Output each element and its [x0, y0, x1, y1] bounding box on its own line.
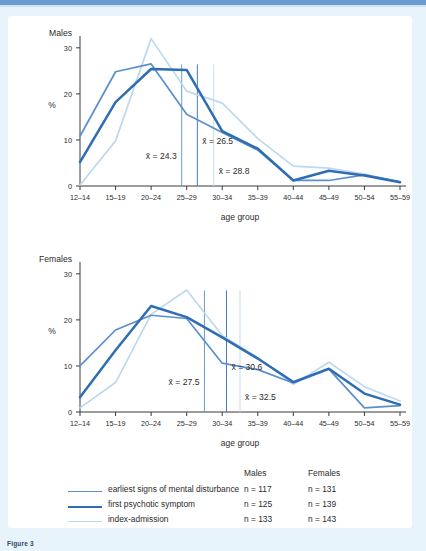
chart-panel-males: Males0102030%12–1415–1920–2425–2930–3435…	[8, 16, 412, 231]
series-line-3	[80, 39, 400, 185]
legend-label: index-admission	[108, 514, 169, 524]
x-tick-label: 20–24	[141, 193, 161, 202]
x-tick-label: 30–34	[212, 193, 232, 202]
legend-line-swatch	[68, 521, 102, 522]
legend-column-header-males: Males	[244, 468, 266, 478]
series-line-1	[80, 64, 400, 182]
figure-card: Males0102030%12–1415–1920–2425–2930–3435…	[8, 16, 412, 528]
x-tick-label: 45–49	[319, 193, 339, 202]
x-axis-label: age group	[221, 438, 260, 448]
mean-label-1: x̄ = 27.5	[169, 377, 200, 387]
chart-svg-males: Males0102030%12–1415–1920–2425–2930–3435…	[8, 16, 412, 231]
x-tick-label: 50–54	[354, 193, 374, 202]
legend-line-swatch	[68, 506, 102, 508]
figure-caption: Figure 3	[7, 540, 207, 551]
x-tick-label: 15–19	[106, 193, 126, 202]
x-tick-label: 15–19	[106, 419, 126, 428]
legend-females-count: n = 131	[308, 484, 336, 494]
legend-males-count: n = 133	[244, 514, 272, 524]
y-tick-label: 0	[68, 408, 72, 417]
y-tick-label: 30	[64, 44, 72, 53]
x-tick-label: 20–24	[141, 419, 161, 428]
mean-label-1: x̄ = 24.3	[146, 151, 177, 161]
legend-column-header-females: Females	[308, 468, 340, 478]
y-axis-label: %	[48, 100, 56, 110]
x-axis-label: age group	[221, 212, 260, 222]
top-accent-bar	[0, 0, 426, 7]
x-tick-label: 12–14	[70, 419, 90, 428]
legend-females-count: n = 139	[308, 499, 336, 509]
y-tick-label: 30	[64, 270, 72, 279]
x-tick-label: 55–59	[390, 419, 410, 428]
legend-label: earliest signs of mental disturbance	[108, 484, 239, 494]
legend-row: first psychotic symptomn = 125n = 139	[68, 499, 412, 515]
x-tick-label: 45–49	[319, 419, 339, 428]
legend-line-swatch	[68, 491, 102, 492]
x-tick-label: 35–39	[248, 419, 268, 428]
x-tick-label: 30–34	[212, 419, 232, 428]
y-axis-label: %	[48, 326, 56, 336]
x-tick-label: 55–59	[390, 193, 410, 202]
legend-label: first psychotic symptom	[108, 499, 195, 509]
y-tick-label: 10	[64, 136, 72, 145]
chart-panel-females: Females0102030%12–1415–1920–2425–2930–34…	[8, 242, 412, 457]
x-tick-label: 40–44	[283, 419, 303, 428]
mean-label-2: x̄ = 26.5	[202, 136, 233, 146]
x-tick-label: 25–29	[177, 419, 197, 428]
legend-males-count: n = 125	[244, 499, 272, 509]
x-tick-label: 12–14	[70, 193, 90, 202]
legend-row: earliest signs of mental disturbancen = …	[68, 484, 412, 500]
legend-males-count: n = 117	[244, 484, 272, 494]
x-tick-label: 35–39	[248, 193, 268, 202]
y-tick-label: 0	[68, 182, 72, 191]
panel-title: Males	[49, 28, 72, 38]
x-tick-label: 25–29	[177, 193, 197, 202]
x-tick-label: 50–54	[354, 419, 374, 428]
panel-title: Females	[39, 254, 72, 264]
legend-row: index-admissionn = 133n = 143	[68, 514, 412, 530]
chart-svg-females: Females0102030%12–1415–1920–2425–2930–34…	[8, 242, 412, 457]
mean-label-2: x̄ = 30.6	[231, 362, 262, 372]
x-tick-label: 40–44	[283, 193, 303, 202]
mean-label-3: x̄ = 32.5	[245, 392, 276, 402]
top-accent-bar-inner	[0, 5, 426, 7]
mean-label-3: x̄ = 28.8	[219, 166, 250, 176]
y-tick-label: 20	[64, 316, 72, 325]
y-tick-label: 20	[64, 90, 72, 99]
legend-females-count: n = 143	[308, 514, 336, 524]
y-tick-label: 10	[64, 362, 72, 371]
